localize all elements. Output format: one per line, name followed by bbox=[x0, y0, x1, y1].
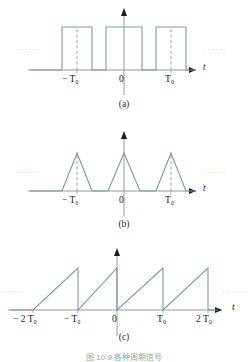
x-tick-label-b-zero: 0 bbox=[119, 195, 124, 205]
ellipsis-right-a: ······ bbox=[203, 44, 228, 54]
panel-a-rectangular-pulse-train: ······ ······ − T₀ 0 T₀ t (a) bbox=[0, 0, 248, 118]
x-tick-label-c-zero: 0 bbox=[112, 314, 117, 324]
x-tick-label-c-neg2T0: − 2 T₀ bbox=[13, 314, 37, 324]
x-axis-label-a: t bbox=[203, 62, 206, 72]
x-tick-label-c-pos2T0: 2 T₀ bbox=[196, 314, 212, 324]
x-tick-label-c-posT0: T₀ bbox=[157, 314, 166, 324]
waveform-sawtooth-c bbox=[10, 268, 218, 310]
x-tick-label-a-posT0: T₀ bbox=[165, 74, 174, 84]
ellipsis-left-a: ······ bbox=[16, 44, 41, 54]
ellipsis-right-b: ······ bbox=[203, 167, 228, 177]
panel-caption-a: (a) bbox=[0, 99, 248, 109]
panel-c-plot bbox=[0, 236, 248, 362]
x-tick-label-b-posT0: T₀ bbox=[165, 195, 174, 205]
panel-caption-b: (b) bbox=[0, 219, 248, 229]
x-axis-label-c: t bbox=[232, 302, 235, 312]
panel-c-sawtooth-wave: ······ ······ − 2 T₀ − T₀ 0 T₀ 2 T₀ t (c… bbox=[0, 236, 248, 362]
panel-b-triangular-pulse-train: ······ ······ − T₀ 0 T₀ t (b) bbox=[0, 118, 248, 236]
ellipsis-right-c: ······ bbox=[222, 286, 247, 296]
ellipsis-left-b: ······ bbox=[16, 167, 41, 177]
y-axis-arrowhead-b bbox=[121, 131, 127, 139]
ellipsis-left-c: ······ bbox=[0, 286, 25, 296]
figure-caption: 图 10-9 各种周期信号 bbox=[0, 351, 248, 362]
x-tick-label-c-negT0: − T₀ bbox=[64, 314, 81, 324]
x-tick-label-b-negT0: − T₀ bbox=[62, 195, 79, 205]
x-tick-label-a-negT0: − T₀ bbox=[62, 74, 79, 84]
x-tick-label-a-zero: 0 bbox=[119, 74, 124, 84]
x-axis-label-b: t bbox=[203, 183, 206, 193]
periodic-signals-figure: ······ ······ − T₀ 0 T₀ t (a) ······ ···… bbox=[0, 0, 248, 362]
y-axis-arrowhead-c bbox=[114, 248, 120, 256]
y-axis-arrowhead-a bbox=[121, 8, 127, 16]
panel-caption-c: (c) bbox=[0, 332, 248, 342]
